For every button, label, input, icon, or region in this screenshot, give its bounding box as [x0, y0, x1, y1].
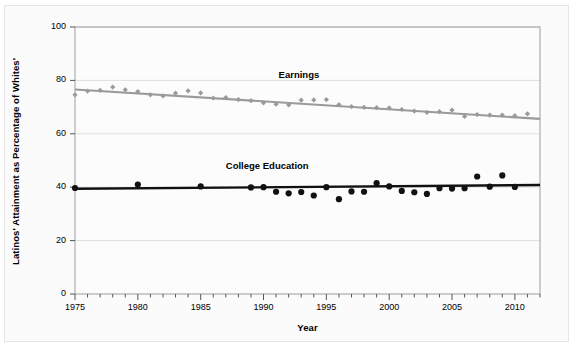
- data-point: [198, 183, 204, 189]
- x-tick-label: 2000: [359, 302, 419, 312]
- x-tick-label: 2010: [485, 302, 545, 312]
- series-label-earnings: Earnings: [279, 69, 320, 80]
- x-tick-label: 1980: [108, 302, 168, 312]
- chart-figure: Latinos' Attainment as Percentage of Whi…: [0, 0, 573, 349]
- data-point: [273, 189, 279, 195]
- x-tick-label: 1985: [171, 302, 231, 312]
- x-tick-label: 1990: [234, 302, 294, 312]
- data-point: [436, 185, 442, 191]
- chart-plot-svg: [0, 0, 573, 349]
- y-tick-label: 40: [0, 181, 66, 191]
- data-point: [323, 184, 329, 190]
- data-point: [135, 181, 141, 187]
- y-tick-label: 20: [0, 235, 66, 245]
- series-label-college: College Education: [226, 160, 309, 171]
- y-axis-title-wrapper: Latinos' Attainment as Percentage of Whi…: [8, 27, 24, 295]
- y-tick-label: 0: [0, 288, 66, 298]
- data-point: [411, 189, 417, 195]
- data-point: [311, 192, 317, 198]
- data-point: [449, 185, 455, 191]
- data-point: [248, 184, 254, 190]
- x-tick-label: 1975: [45, 302, 105, 312]
- data-point: [461, 185, 467, 191]
- data-point: [286, 190, 292, 196]
- data-point: [474, 173, 480, 179]
- data-point: [348, 188, 354, 194]
- y-axis-title: Latinos' Attainment as Percentage of Whi…: [11, 57, 22, 264]
- x-axis-title: Year: [75, 322, 540, 333]
- data-point: [298, 189, 304, 195]
- y-tick-label: 80: [0, 74, 66, 84]
- data-point: [512, 184, 518, 190]
- data-point: [487, 184, 493, 190]
- data-point: [374, 180, 380, 186]
- data-point: [399, 188, 405, 194]
- data-point: [361, 189, 367, 195]
- y-tick-label: 100: [0, 21, 66, 31]
- data-point: [386, 183, 392, 189]
- data-point: [499, 172, 505, 178]
- data-point: [336, 196, 342, 202]
- x-tick-label: 1995: [296, 302, 356, 312]
- y-tick-label: 60: [0, 128, 66, 138]
- data-point: [260, 184, 266, 190]
- data-point: [424, 191, 430, 197]
- data-point: [72, 185, 78, 191]
- x-tick-label: 2005: [422, 302, 482, 312]
